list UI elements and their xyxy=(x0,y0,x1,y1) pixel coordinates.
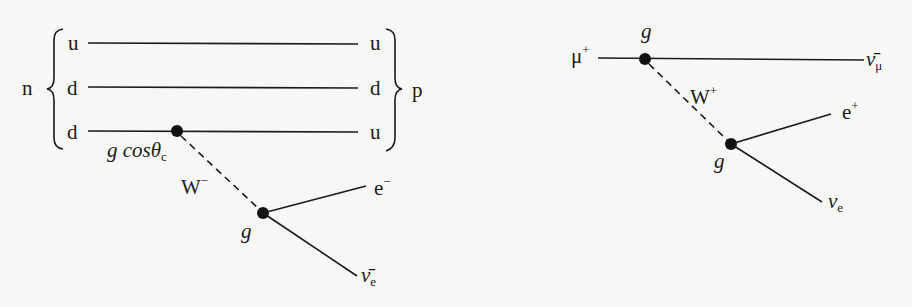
w-minus-label: W− xyxy=(181,173,208,199)
quark-out-d: d xyxy=(370,76,381,100)
coupling-g-upper: g xyxy=(641,19,652,43)
vertex-quark-w xyxy=(171,125,183,137)
right-brace xyxy=(386,29,402,151)
quark-line-u xyxy=(88,43,358,44)
quark-in-u: u xyxy=(68,31,79,55)
w-plus-label: W+ xyxy=(690,83,717,109)
quark-out-u2: u xyxy=(370,120,381,144)
muon-antineutrino-label: ν̄μ xyxy=(866,47,882,73)
electron-neutrino-label: νe xyxy=(828,189,843,215)
left-brace xyxy=(47,29,63,149)
quark-out-u1: u xyxy=(370,31,381,55)
positron-line xyxy=(731,114,831,144)
electron-label: e− xyxy=(374,174,391,200)
feynman-diagrams: n u d d u d u p g cosθc W− g xyxy=(0,0,912,307)
antineutrino-line xyxy=(263,213,357,276)
neutron-label: n xyxy=(22,76,33,100)
electron-line xyxy=(263,186,366,213)
coupling-g-cos-theta: g cosθc xyxy=(107,138,167,164)
quark-line-d-to-u xyxy=(88,131,358,132)
proton-label: p xyxy=(412,78,423,102)
quark-in-d2: d xyxy=(67,120,78,144)
quark-in-d1: d xyxy=(67,76,78,100)
w-plus-propagator xyxy=(649,64,727,140)
electron-antineutrino-label: ν̄e xyxy=(361,263,376,289)
neutron-decay-diagram: n u d d u d u p g cosθc W− g xyxy=(22,29,423,289)
electron-neutrino-line xyxy=(731,144,822,202)
coupling-g-lower: g xyxy=(241,219,252,243)
muon-decay-diagram: μ+ ν̄μ g W+ g e+ νe xyxy=(571,19,882,215)
muon-neutrino-line xyxy=(598,58,864,60)
vertex-muon-w xyxy=(639,53,651,65)
coupling-g-lower-right: g xyxy=(714,149,725,173)
quark-line-d xyxy=(88,87,358,88)
positron-label: e+ xyxy=(842,98,859,124)
muon-label: μ+ xyxy=(571,42,590,68)
